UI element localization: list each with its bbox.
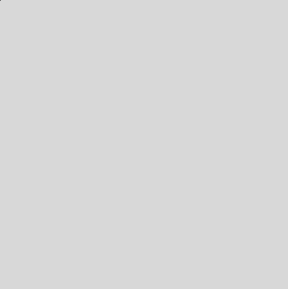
coordinate-plane: [0, 0, 288, 289]
